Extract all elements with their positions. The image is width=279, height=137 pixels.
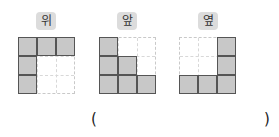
answer-open-paren: (	[91, 110, 97, 128]
filled-cell	[217, 37, 236, 56]
filled-cell	[18, 75, 37, 94]
grid-side	[179, 37, 236, 94]
grid-front	[99, 37, 156, 94]
filled-cell	[56, 37, 75, 56]
filled-cell	[137, 75, 156, 94]
filled-cell	[99, 75, 118, 94]
filled-cell	[179, 75, 198, 94]
filled-cell	[18, 56, 37, 75]
filled-cell	[217, 56, 236, 75]
filled-cell	[198, 75, 217, 94]
grid-top	[18, 37, 75, 94]
filled-cell	[18, 37, 37, 56]
filled-cell	[118, 75, 137, 94]
label-top: 위	[36, 12, 56, 30]
label-front: 앞	[117, 12, 137, 30]
answer-blank[interactable]	[100, 110, 260, 128]
filled-cell	[99, 56, 118, 75]
filled-cell	[99, 37, 118, 56]
filled-cell	[217, 75, 236, 94]
answer-close-paren: )	[264, 110, 270, 128]
filled-cell	[118, 56, 137, 75]
label-side: 옆	[198, 12, 218, 30]
filled-cell	[37, 37, 56, 56]
